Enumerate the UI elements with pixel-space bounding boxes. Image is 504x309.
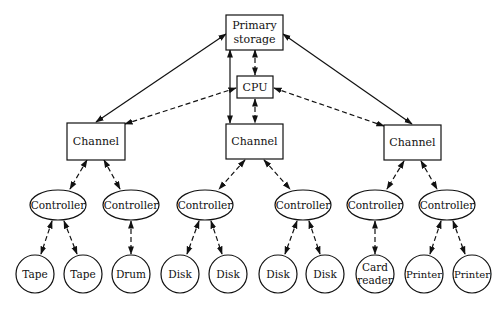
device-drum: Drum <box>112 255 150 293</box>
edge-ch2-ctl3 <box>219 160 245 189</box>
controller-label: Controller <box>104 199 160 211</box>
channel-node-3: Channel <box>384 125 441 160</box>
controller-label: Controller <box>31 199 87 211</box>
edge-ch3-ctl5 <box>387 161 404 189</box>
primary-storage-label-line1: Primary <box>232 19 277 32</box>
controller-node-5: Controller <box>347 190 403 220</box>
edge-ctl6-printer1 <box>430 221 441 254</box>
controller-node-1: Controller <box>30 190 86 220</box>
channel-controller-links <box>70 160 437 189</box>
channel-node-1: Channel <box>67 123 125 160</box>
channel-label: Channel <box>73 135 120 148</box>
device-disk-1: Disk <box>161 255 199 293</box>
device-printer-1: Printer <box>405 255 443 293</box>
cpu-node: CPU <box>237 76 273 98</box>
primary-storage-node: Primary storage <box>226 15 283 50</box>
edge-ctl4-disk4 <box>309 221 320 254</box>
edge-ctl6-printer2 <box>453 221 465 254</box>
edge-ch2-ctl4 <box>264 160 290 189</box>
edge-cpu-channel3 <box>274 88 384 126</box>
edge-ctl1-tape2 <box>64 221 77 254</box>
controller-node-2: Controller <box>103 190 159 220</box>
edge-storage-channel1 <box>96 34 226 122</box>
device-disk-4: Disk <box>306 255 344 293</box>
io-architecture-diagram: Primary storage CPU Channel Channel Chan… <box>0 0 504 309</box>
edge-ch3-ctl6 <box>421 161 437 189</box>
edge-ch1-ctl1 <box>70 160 87 189</box>
device-label: Drum <box>116 268 146 280</box>
edge-ctl1-tape1 <box>41 221 52 254</box>
edge-ctl3-disk2 <box>211 221 222 254</box>
device-label: Printer <box>406 269 442 280</box>
device-tape-1: Tape <box>16 255 54 293</box>
controller-label: Controller <box>276 199 332 211</box>
edge-ctl3-disk1 <box>187 221 199 254</box>
device-label: Disk <box>313 268 337 280</box>
device-tape-2: Tape <box>64 255 102 293</box>
channel-label: Channel <box>389 136 436 149</box>
controller-label: Controller <box>178 199 234 211</box>
device-label: Tape <box>22 268 47 280</box>
edge-cpu-channel1 <box>125 88 236 124</box>
edge-ctl4-disk3 <box>285 221 297 254</box>
device-label: Disk <box>266 268 290 280</box>
primary-storage-label-line2: storage <box>233 33 275 46</box>
cpu-label: CPU <box>243 81 268 94</box>
device-printer-2: Printer <box>453 255 491 293</box>
controller-node-4: Controller <box>275 190 331 220</box>
device-card-reader: Card reader <box>356 255 394 293</box>
device-label: Printer <box>454 269 490 280</box>
edge-storage-channel3 <box>283 34 412 124</box>
controller-label: Controller <box>348 199 404 211</box>
device-disk-3: Disk <box>259 255 297 293</box>
device-disk-2: Disk <box>209 255 247 293</box>
controller-node-6: Controller <box>419 190 475 220</box>
channel-node-2: Channel <box>226 124 283 159</box>
edge-ch1-ctl2 <box>104 160 120 189</box>
device-label-line1: Card <box>362 261 388 273</box>
device-label-line2: reader <box>357 274 393 286</box>
channel-label: Channel <box>231 135 278 148</box>
device-label: Disk <box>168 268 192 280</box>
device-label: Tape <box>70 268 95 280</box>
controller-label: Controller <box>420 199 476 211</box>
device-label: Disk <box>216 268 240 280</box>
controller-node-3: Controller <box>177 190 233 220</box>
controller-device-links <box>41 221 465 254</box>
